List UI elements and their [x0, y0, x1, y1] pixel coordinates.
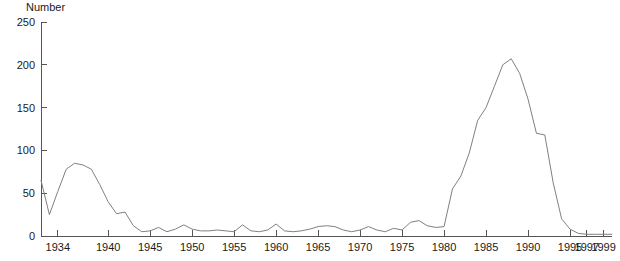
- plot-area: 050100150200250 193419401945195019551960…: [0, 0, 620, 261]
- y-tick-label: 200: [17, 59, 35, 71]
- y-tick-label: 0: [29, 230, 35, 242]
- y-tick-label: 250: [17, 16, 35, 28]
- x-tick-label: 1999: [591, 241, 615, 253]
- x-tick-label: 1990: [516, 241, 540, 253]
- x-tick-label: 1934: [46, 241, 70, 253]
- x-tick-label: 1975: [390, 241, 414, 253]
- line-chart: Number 050100150200250 19341940194519501…: [0, 0, 620, 261]
- x-tick-label: 1955: [222, 241, 246, 253]
- x-tick-label: 1985: [474, 241, 498, 253]
- y-tick-label: 150: [17, 102, 35, 114]
- x-tick-label: 1960: [264, 241, 288, 253]
- y-tick-label: 50: [23, 187, 35, 199]
- x-tick-label: 1940: [96, 241, 120, 253]
- x-tick-label: 1965: [306, 241, 330, 253]
- y-axis-ticks: 050100150200250: [17, 16, 47, 242]
- x-tick-label: 1945: [138, 241, 162, 253]
- x-tick-label: 1970: [348, 241, 372, 253]
- y-tick-label: 100: [17, 144, 35, 156]
- x-tick-label: 1950: [180, 241, 204, 253]
- x-tick-label: 1980: [432, 241, 456, 253]
- data-series-line: [41, 59, 612, 234]
- x-axis-ticks: 1934194019451950195519601965197019751980…: [46, 230, 616, 253]
